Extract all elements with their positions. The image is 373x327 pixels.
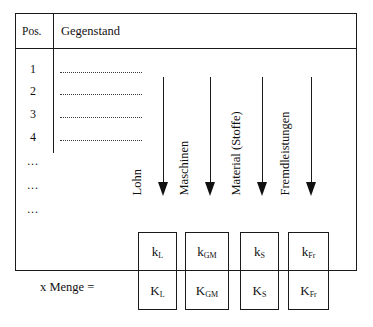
unit-cost-cell: kS	[241, 233, 278, 271]
table-row-number: 3	[22, 108, 44, 120]
table-continuation-row: ...	[22, 179, 44, 191]
flow-arrow-lohn	[158, 77, 169, 197]
multiplier-label: x Menge =	[40, 281, 94, 294]
table-row-dotted-line	[60, 94, 142, 95]
total-cost-cell: KL	[139, 271, 176, 309]
column-header-gegenstand: Gegenstand	[61, 25, 120, 38]
total-cost-cell: KFr	[289, 271, 328, 309]
arrow-head-icon	[306, 182, 316, 196]
arrow-shaft	[311, 77, 312, 187]
total-cost-symbol: KS	[253, 284, 267, 297]
unit-cost-symbol: kL	[152, 245, 163, 258]
figure-canvas: Pos. Gegenstand 1 2 3 4 ... ... ... Lohn…	[0, 0, 373, 327]
category-label-fremdleistungen: Fremdleistungen	[291, 70, 307, 195]
arrow-shaft	[163, 77, 164, 187]
category-label-maschinen: Maschinen	[190, 70, 206, 195]
flow-arrow-material	[257, 77, 268, 197]
unit-cost-symbol: kS	[254, 245, 265, 258]
arrow-shaft	[210, 77, 211, 187]
table-row-dotted-line	[60, 140, 142, 141]
flow-arrow-maschinen	[205, 77, 216, 197]
table-row-number: 1	[22, 63, 44, 75]
total-cost-symbol: KL	[150, 284, 164, 297]
unit-cost-cell: kFr	[289, 233, 328, 271]
total-cost-symbol: KFr	[300, 284, 317, 297]
cost-box-lohn: kL KL	[138, 232, 177, 310]
total-cost-cell: KGM	[186, 271, 228, 309]
unit-cost-symbol: kFr	[302, 245, 316, 258]
unit-cost-cell: kL	[139, 233, 176, 271]
column-header-pos: Pos.	[22, 26, 42, 38]
cost-box-material: kS KS	[240, 232, 279, 310]
table-row-number: 2	[22, 85, 44, 97]
flow-arrow-fremdleistungen	[306, 77, 317, 197]
table-row-dotted-line	[60, 117, 142, 118]
table-continuation-row: ...	[22, 155, 44, 167]
arrow-head-icon	[257, 182, 267, 196]
arrow-head-icon	[158, 182, 168, 196]
unit-cost-cell: kGM	[186, 233, 228, 271]
category-label-text: Maschinen	[178, 140, 191, 195]
table-continuation-row: ...	[22, 203, 44, 215]
total-cost-cell: KS	[241, 271, 278, 309]
category-label-text: Lohn	[131, 169, 144, 195]
category-label-text: Fremdleistungen	[279, 111, 292, 195]
category-label-lohn: Lohn	[143, 70, 159, 195]
cost-box-maschinen: kGM KGM	[185, 232, 229, 310]
table-row-number: 4	[22, 131, 44, 143]
unit-cost-symbol: kGM	[197, 245, 216, 258]
category-label-text: Material (Stoffe)	[230, 111, 243, 195]
arrow-head-icon	[205, 182, 215, 196]
table-column-divider	[53, 13, 54, 153]
table-row-dotted-line	[60, 72, 142, 73]
total-cost-symbol: KGM	[196, 284, 218, 297]
table-header-separator	[15, 48, 357, 49]
arrow-shaft	[262, 77, 263, 187]
cost-box-fremdleistungen: kFr KFr	[288, 232, 329, 310]
category-label-material: Material (Stoffe)	[242, 70, 258, 195]
